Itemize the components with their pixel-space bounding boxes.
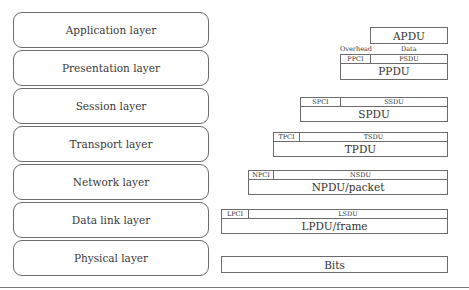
layer-label: Data link layer (72, 214, 150, 226)
layer-datalink: Data link layer (13, 202, 209, 238)
layer-label: Network layer (73, 176, 149, 188)
layer-label: Physical layer (74, 252, 148, 264)
layer-label: Application layer (66, 24, 157, 36)
pdu-name: TPDU (274, 141, 447, 156)
layer-physical: Physical layer (13, 240, 209, 276)
pdu-name: SPDU (301, 106, 447, 121)
layer-label: Transport layer (70, 138, 153, 150)
bits-box: Bits (221, 256, 448, 273)
sdu-cell: TSDU (300, 133, 447, 141)
pdu-name: NPDU/packet (249, 179, 447, 194)
sdu-cell: PSDU (371, 55, 447, 63)
sdu-cell: SSDU (341, 98, 447, 106)
pci-cell: PPCI (341, 55, 371, 63)
lpdu-box: LPCI LSDU LPDU/frame (221, 209, 448, 234)
layer-transport: Transport layer (13, 126, 209, 162)
sdu-cell: LSDU (249, 210, 447, 218)
overhead-label: Overhead (340, 45, 372, 53)
pci-cell: NPCI (249, 171, 274, 179)
pdu-name: APDU (371, 28, 447, 43)
layer-label: Session layer (76, 100, 147, 112)
layer-label: Presentation layer (62, 62, 160, 74)
layer-session: Session layer (13, 88, 209, 124)
pci-cell: LPCI (222, 210, 249, 218)
layer-application: Application layer (13, 12, 209, 48)
spdu-box: SPCI SSDU SPDU (300, 97, 448, 122)
pdu-name: LPDU/frame (222, 218, 447, 233)
tpdu-box: TPCI TSDU TPDU (273, 132, 448, 157)
bottom-rule (0, 287, 469, 288)
data-label: Data (401, 45, 417, 53)
pci-cell: TPCI (274, 133, 300, 141)
pdu-name: Bits (222, 257, 447, 272)
sdu-cell: NSDU (274, 171, 447, 179)
pci-cell: SPCI (301, 98, 341, 106)
pdu-name: PPDU (341, 63, 447, 79)
layer-presentation: Presentation layer (13, 50, 209, 86)
npdu-box: NPCI NSDU NPDU/packet (248, 170, 448, 195)
apdu-box: APDU (370, 27, 448, 44)
layer-network: Network layer (13, 164, 209, 200)
ppdu-box: PPCI PSDU PPDU (340, 54, 448, 80)
